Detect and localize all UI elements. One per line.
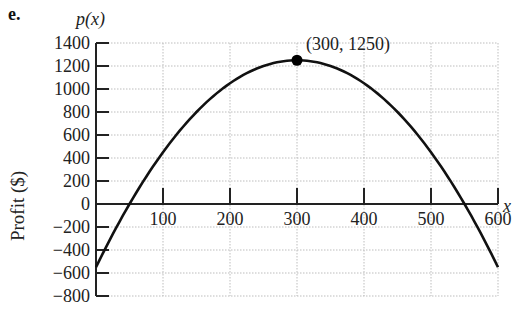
y-tick-label: 400 — [63, 148, 90, 168]
part-label: e. — [8, 4, 21, 24]
y-tick-label: 1000 — [54, 79, 90, 99]
y-axis-ticks: 1400120010008006004002000−200−400−600−80… — [53, 33, 109, 306]
y-tick-label: 1200 — [54, 56, 90, 76]
y-tick-label: 1400 — [54, 33, 90, 53]
y-tick-label: 200 — [63, 171, 90, 191]
vertex-label: (300, 1250) — [306, 34, 390, 55]
y-tick-label: 800 — [63, 102, 90, 122]
y-tick-label: −600 — [53, 263, 90, 283]
grid-lines — [96, 43, 498, 296]
vertex-point — [292, 55, 303, 66]
function-label: p(x) — [74, 9, 105, 30]
y-axis-label: Profit ($) — [7, 171, 29, 241]
x-tick-label: 300 — [284, 209, 311, 229]
y-tick-label: 600 — [63, 125, 90, 145]
x-tick-label: 200 — [217, 209, 244, 229]
y-tick-label: −200 — [53, 217, 90, 237]
profit-chart: 1400120010008006004002000−200−400−600−80… — [0, 0, 519, 312]
y-tick-label: −800 — [53, 286, 90, 306]
x-axis-label: x — [502, 196, 511, 216]
x-tick-label: 100 — [150, 209, 177, 229]
x-tick-label: 400 — [351, 209, 378, 229]
x-tick-label: 500 — [418, 209, 445, 229]
y-tick-label: 0 — [81, 194, 90, 214]
y-tick-label: −400 — [53, 240, 90, 260]
